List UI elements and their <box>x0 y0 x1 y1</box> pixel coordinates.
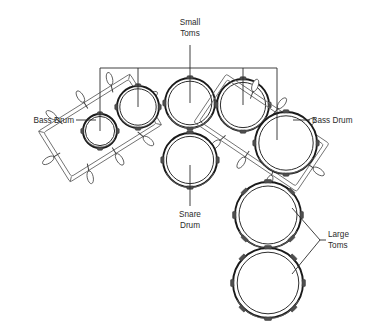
label-large-toms-line1: Large <box>328 230 349 239</box>
label-snare-drum: Snare Drum <box>179 210 201 230</box>
label-small-toms: Small Toms <box>180 18 201 38</box>
large-tom-1 <box>233 180 304 251</box>
label-large-toms-line2: Toms <box>328 241 348 250</box>
label-bass-drum-left: Bass Drum <box>34 116 75 125</box>
label-snare-drum-line2: Drum <box>180 221 200 230</box>
label-large-toms: Large Toms <box>328 230 349 250</box>
label-small-toms-line2: Toms <box>180 29 200 38</box>
diagram-canvas: Small Toms Bass Drum Bass Drum Snare Dru… <box>0 0 373 333</box>
drum-kit-diagram: Small Toms Bass Drum Bass Drum Snare Dru… <box>0 0 373 333</box>
large-tom-2 <box>231 246 306 321</box>
label-bass-drum-right: Bass Drum <box>312 116 353 125</box>
label-snare-drum-line1: Snare <box>179 210 201 219</box>
label-small-toms-line1: Small <box>180 18 201 27</box>
